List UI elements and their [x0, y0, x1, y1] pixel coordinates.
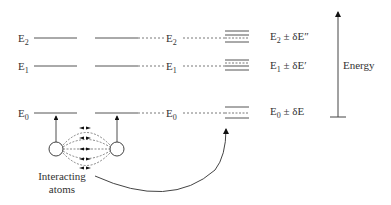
atom-right: [110, 142, 124, 156]
energy-level-diagram: E2 E1 E0 E2 E1 E0 E2 ± δE″: [0, 0, 391, 205]
split-label-e0: E0 ± δE: [270, 105, 304, 120]
split-label-e2: E2 ± δE″: [270, 30, 309, 45]
energy-axis: Energy: [330, 12, 375, 117]
atom-left: [49, 142, 63, 156]
interacting-atoms: Interacting atoms: [38, 116, 124, 195]
left-levels: E2 E1 E0: [18, 32, 77, 122]
left-level-e2-label: E2: [18, 32, 29, 47]
left-level-e1-label: E1: [18, 60, 29, 75]
middle-level-e2-label: E2: [166, 32, 177, 47]
energy-axis-label: Energy: [343, 59, 375, 71]
atoms-label-line2: atoms: [49, 183, 75, 195]
middle-levels: E2 E1 E0: [95, 32, 225, 122]
split-label-e1: E1 ± δE′: [270, 59, 307, 74]
split-levels: [225, 31, 249, 118]
broadening-curved-arrow: [95, 129, 226, 192]
atoms-label-line1: Interacting: [38, 170, 86, 182]
left-level-e0-label: E0: [18, 107, 29, 122]
middle-level-e0-label: E0: [166, 107, 177, 122]
split-labels: E2 ± δE″ E1 ± δE′ E0 ± δE: [270, 30, 309, 120]
middle-level-e1-label: E1: [166, 60, 177, 75]
